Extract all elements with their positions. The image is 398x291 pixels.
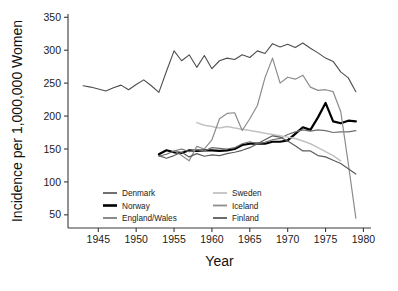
x-tick-label: 1945 (87, 233, 111, 245)
legend-label-iceland: Iceland (232, 202, 259, 211)
series-line-finland (159, 136, 356, 174)
x-tick-label: 1955 (162, 233, 186, 245)
x-tick-label: 1950 (124, 233, 148, 245)
series-line-iceland (174, 58, 356, 218)
y-tick-label: 50 (49, 208, 61, 220)
series-line-norway (159, 103, 356, 154)
line-chart: 5010015020025030035019451950195519601965… (0, 0, 398, 291)
y-tick-label: 300 (43, 44, 61, 56)
legend-label-norway: Norway (122, 202, 151, 211)
legend-label-finland: Finland (232, 214, 259, 223)
y-tick-label: 200 (43, 110, 61, 122)
chart-tick-labels: 5010015020025030035019451950195519601965… (43, 11, 375, 245)
y-tick-label: 250 (43, 77, 61, 89)
legend-label-sweden: Sweden (232, 189, 262, 198)
x-axis-title: Year (205, 253, 234, 269)
x-tick-label: 1980 (352, 233, 376, 245)
x-tick-label: 1960 (200, 233, 224, 245)
x-tick-label: 1965 (238, 233, 262, 245)
y-tick-label: 100 (43, 176, 61, 188)
series-line-denmark (83, 43, 356, 92)
legend-label-denmark: Denmark (122, 189, 156, 198)
chart-legend: DenmarkNorwayEngland/WalesSwedenIcelandF… (103, 189, 262, 223)
y-axis-title: Incidence per 1,000,000 Women (9, 20, 25, 222)
legend-label-england-wales: England/Wales (122, 214, 177, 223)
y-tick-label: 350 (43, 11, 61, 23)
x-tick-label: 1975 (314, 233, 338, 245)
y-tick-label: 150 (43, 143, 61, 155)
chart-figure: 5010015020025030035019451950195519601965… (0, 0, 398, 291)
x-tick-label: 1970 (276, 233, 300, 245)
